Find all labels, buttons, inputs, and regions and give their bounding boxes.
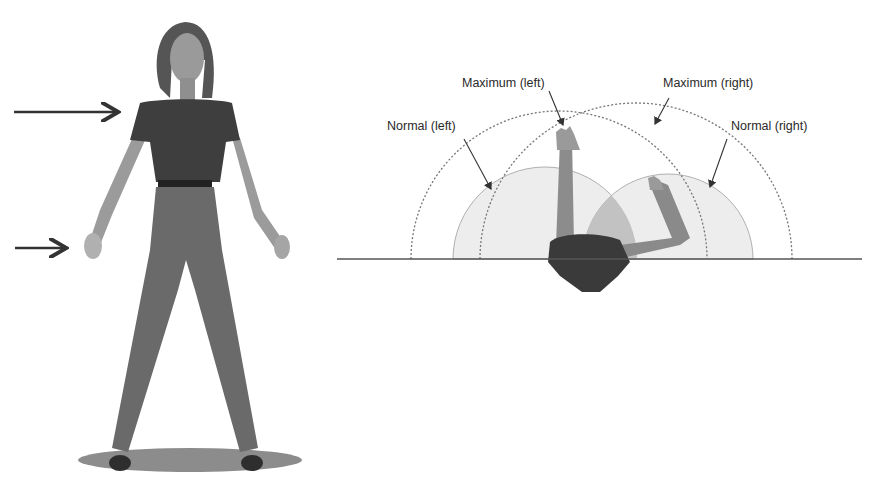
label-normal-right: Normal (right) xyxy=(731,119,807,133)
torso-top-view xyxy=(548,234,630,292)
label-normal-left: Normal (left) xyxy=(387,119,456,133)
normal-right-leader xyxy=(710,139,727,187)
reach-envelope-panel xyxy=(0,0,873,485)
max-left-leader xyxy=(549,91,563,125)
normal-left-leader xyxy=(464,139,491,189)
label-maximum-right: Maximum (right) xyxy=(663,76,753,90)
max-right-leader xyxy=(655,98,669,124)
left-hand xyxy=(556,126,580,150)
label-maximum-left: Maximum (left) xyxy=(462,76,545,90)
